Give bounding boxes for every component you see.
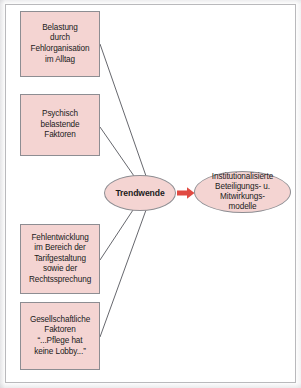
outcome-ellipse-modelle[interactable]: Institutionalisierte Beteiligungs- u. Mi… <box>194 171 291 213</box>
factor-box-belastung-label: Belastung durch Fehlorganisation im Allt… <box>31 23 90 65</box>
arrow-right-icon <box>176 185 196 201</box>
connector-box1-to-hub <box>100 44 146 176</box>
connector-box3-to-hub <box>100 210 133 260</box>
hub-ellipse-label: Trendwende <box>115 188 164 198</box>
factor-box-belastung[interactable]: Belastung durch Fehlorganisation im Allt… <box>20 11 100 77</box>
factor-box-fehlentwicklung-label: Fehlentwicklung im Bereich der Tarifgest… <box>29 233 91 286</box>
diagram-canvas: Belastung durch Fehlorganisation im Allt… <box>0 0 301 388</box>
factor-box-psychisch-label: Psychisch belastende Faktoren <box>40 109 79 141</box>
connector-box4-to-hub <box>100 210 146 337</box>
factor-box-gesellschaftliche-label: Gesellschaftliche Faktoren “...Pflege ha… <box>30 315 90 357</box>
hub-ellipse-trendwende[interactable]: Trendwende <box>104 175 176 211</box>
outcome-ellipse-label: Institutionalisierte Beteiligungs- u. Mi… <box>212 172 273 213</box>
factor-box-fehlentwicklung[interactable]: Fehlentwicklung im Bereich der Tarifgest… <box>20 224 100 294</box>
connector-box2-to-hub <box>100 127 134 176</box>
factor-box-psychisch[interactable]: Psychisch belastende Faktoren <box>20 94 100 156</box>
factor-box-gesellschaftliche[interactable]: Gesellschaftliche Faktoren “...Pflege ha… <box>20 302 100 370</box>
